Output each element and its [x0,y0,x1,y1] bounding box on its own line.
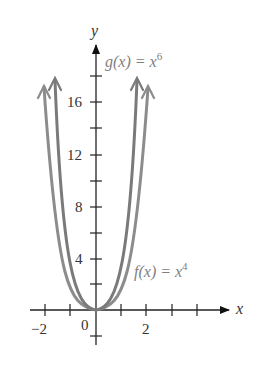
x-tick-label-neg2: −2 [31,321,47,337]
x-tick-label-2: 2 [142,321,150,337]
chart: −2 0 2 4 8 12 16 x y g(x) = x6 f(x) = x4 [0,0,257,369]
x-tick-label-0: 0 [81,317,89,333]
y-tick-label-8: 8 [75,199,83,215]
y-tick-label-12: 12 [67,147,82,163]
f-function-label: f(x) = x4 [134,260,188,281]
y-tick-label-16: 16 [67,94,83,110]
g-function-label: g(x) = x6 [105,50,163,71]
y-tick-label-4: 4 [75,251,83,267]
x-axis-label: x [235,300,243,317]
y-axis-label: y [89,22,99,40]
